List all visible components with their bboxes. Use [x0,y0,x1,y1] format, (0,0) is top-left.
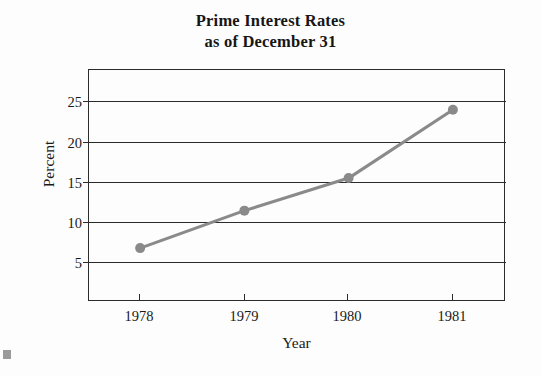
x-tick-label-1981: 1981 [417,307,487,325]
y-tick-label-5: 5 [52,256,82,271]
y-tick-label-10: 10 [52,216,82,231]
gridline-15 [89,182,506,183]
chart-title-line-1: Prime Interest Rates [196,11,345,30]
x-axis-tick-labels: 1978 1979 1980 1981 [88,307,505,331]
x-tick-1979 [244,294,245,301]
x-tick-label-1978: 1978 [104,307,174,325]
gridline-10 [89,222,506,223]
gridline-5 [89,262,506,263]
x-tick-label-1979: 1979 [209,307,279,325]
x-tick-label-1980: 1980 [312,307,382,325]
y-axis-tick-labels: 25 20 15 10 5 [46,69,82,301]
chart-figure: Prime Interest Rates as of December 31 P… [0,0,541,376]
gridline-25 [89,101,506,102]
x-tick-1978 [139,294,140,301]
gridline-20 [89,142,506,143]
y-tick-label-15: 15 [52,176,82,191]
plot-area [88,69,505,301]
chart-title: Prime Interest Rates as of December 31 [0,10,541,52]
x-tick-1981 [452,294,453,301]
y-tick-label-20: 20 [52,136,82,151]
chart-title-line-2: as of December 31 [0,31,541,52]
x-tick-1980 [347,294,348,301]
scan-artifact [3,350,11,359]
x-axis-title: Year [88,334,505,352]
y-tick-label-25: 25 [52,95,82,110]
